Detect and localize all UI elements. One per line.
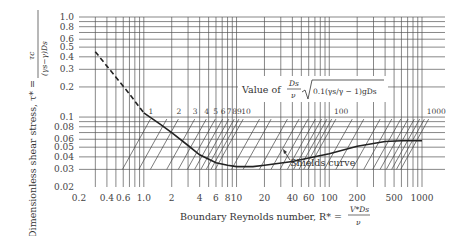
svg-text:6: 6 bbox=[213, 193, 219, 203]
svg-text:0.5: 0.5 bbox=[60, 42, 75, 52]
svg-text:4: 4 bbox=[197, 193, 203, 203]
svg-text:0.04: 0.04 bbox=[54, 152, 74, 162]
svg-text:2: 2 bbox=[176, 107, 181, 116]
x-frac-num: V*Ds bbox=[350, 205, 369, 214]
svg-text:1.0: 1.0 bbox=[137, 193, 152, 203]
svg-text:0.4: 0.4 bbox=[100, 193, 115, 203]
svg-text:0.6: 0.6 bbox=[116, 193, 131, 203]
svg-text:5: 5 bbox=[213, 107, 218, 116]
svg-text:0.08: 0.08 bbox=[54, 122, 74, 132]
svg-text:0.4: 0.4 bbox=[60, 52, 75, 62]
svg-text:8: 8 bbox=[225, 193, 231, 203]
svg-text:60: 60 bbox=[303, 193, 315, 203]
parameter-sqrt-expr: 0.1(γs/γ − 1)gDs bbox=[313, 87, 377, 96]
svg-text:20: 20 bbox=[259, 193, 271, 203]
y-frac-den: (γs−γ)Ds bbox=[40, 41, 49, 76]
shields-diagram: 123456789101001000 0.20.40.61.0246810204… bbox=[0, 0, 472, 236]
svg-text:100: 100 bbox=[334, 107, 349, 116]
svg-text:0.02: 0.02 bbox=[54, 182, 74, 192]
svg-text:0.3: 0.3 bbox=[60, 64, 75, 74]
svg-text:1: 1 bbox=[148, 107, 153, 116]
svg-text:10: 10 bbox=[231, 193, 243, 203]
shields-curve bbox=[95, 52, 422, 167]
svg-text:7: 7 bbox=[227, 107, 232, 116]
svg-text:4: 4 bbox=[204, 107, 209, 116]
svg-text:0.1: 0.1 bbox=[60, 112, 74, 122]
svg-text:0.2: 0.2 bbox=[72, 193, 86, 203]
svg-text:0.2: 0.2 bbox=[60, 82, 74, 92]
svg-text:3: 3 bbox=[193, 107, 198, 116]
parameter-label-prefix: Value of bbox=[241, 84, 282, 95]
curve-label: Shields curve bbox=[290, 157, 356, 168]
svg-text:0.8: 0.8 bbox=[60, 22, 75, 32]
svg-text:2: 2 bbox=[169, 193, 175, 203]
y-frac-num: τc bbox=[27, 51, 36, 60]
parameter-frac-den: ν bbox=[291, 91, 296, 100]
svg-text:1000: 1000 bbox=[427, 107, 446, 116]
svg-text:40: 40 bbox=[287, 193, 299, 203]
parameter-frac-num: Ds bbox=[288, 79, 299, 88]
svg-text:100: 100 bbox=[321, 193, 338, 203]
svg-text:0.03: 0.03 bbox=[54, 164, 74, 174]
svg-text:0.05: 0.05 bbox=[54, 142, 74, 152]
svg-text:500: 500 bbox=[385, 193, 402, 203]
svg-text:6: 6 bbox=[221, 107, 226, 116]
y-axis-label: Dimensionless shear stress, τ* = bbox=[27, 80, 38, 236]
diagonal-parameter-lines: 123456789101001000 bbox=[122, 107, 446, 169]
svg-text:200: 200 bbox=[349, 193, 366, 203]
svg-text:1.0: 1.0 bbox=[60, 12, 75, 22]
svg-text:10: 10 bbox=[241, 107, 251, 116]
x-frac-den: ν bbox=[356, 218, 361, 227]
x-axis-label: Boundary Reynolds number, R* = bbox=[180, 211, 342, 222]
svg-text:1000: 1000 bbox=[411, 193, 434, 203]
